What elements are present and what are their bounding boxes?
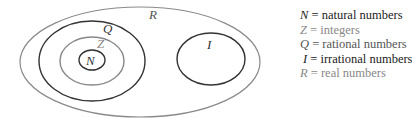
set-r-label: R (148, 7, 157, 22)
legend-equals: = (308, 66, 321, 80)
legend-equals: = (307, 23, 320, 37)
set-q-label: Q (103, 21, 113, 36)
legend-symbol: Z (300, 23, 307, 37)
legend-equals: = (308, 8, 321, 22)
legend-item-z: Z = integers (300, 23, 412, 38)
legend-text: rational numbers (322, 37, 406, 51)
set-r-ellipse (20, 7, 260, 117)
legend-item-n: N = natural numbers (300, 8, 412, 23)
legend-item-i: I = irrational numbers (300, 52, 412, 67)
set-n-label: N (85, 53, 96, 68)
legend-equals: = (309, 37, 322, 51)
legend-text: irrational numbers (320, 52, 412, 66)
legend-item-q: Q = rational numbers (300, 37, 412, 52)
legend: N = natural numbers Z = integers Q = rat… (300, 8, 412, 81)
legend-symbol: Q (300, 37, 309, 51)
legend-item-r: R = real numbers (300, 66, 412, 81)
legend-text: natural numbers (322, 8, 403, 22)
legend-text: integers (320, 23, 360, 37)
set-i-label: I (206, 37, 212, 52)
legend-equals: = (307, 52, 320, 66)
set-z-label: Z (97, 36, 105, 51)
legend-text: real numbers (321, 66, 386, 80)
legend-symbol: R (300, 66, 308, 80)
